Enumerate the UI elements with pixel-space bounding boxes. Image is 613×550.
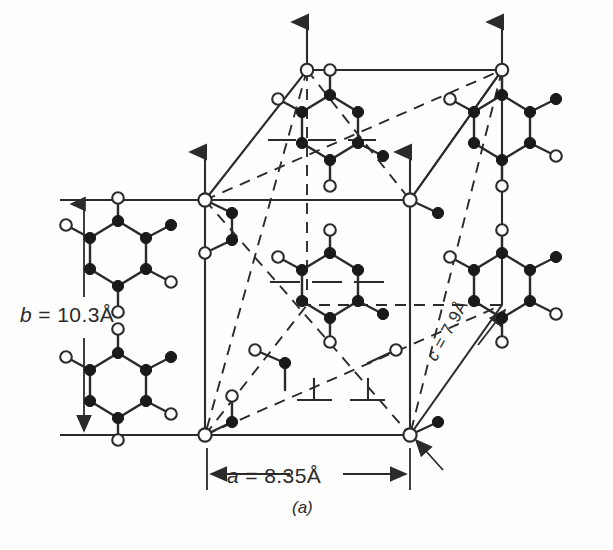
symmetry-marker-T-right [350, 378, 385, 400]
hidden-diagonal-top [205, 70, 502, 200]
unit-cell-hidden-edges [205, 70, 502, 435]
label-b-symbol: b [20, 303, 32, 326]
aromatic-ring-cell-front-lower [278, 230, 383, 342]
label-a-unit: Å [307, 464, 321, 487]
label-b-axis: b = 10.3Å [20, 303, 114, 327]
label-a-equals: = [239, 464, 264, 487]
molecular-structure-group [66, 70, 556, 440]
hidden-body-diagonal-a [410, 70, 502, 435]
label-b-value: 10.3 [57, 303, 99, 326]
hidden-edge-bottom-left [205, 305, 307, 435]
crystal-structure-figure: b = 10.3Å a = 8.35Å c = 7.9Å (a) [0, 0, 613, 550]
hidden-body-diagonal-b [205, 70, 307, 435]
label-b-unit: Å [100, 303, 114, 326]
symmetry-marker-group [150, 140, 385, 400]
label-a-symbol: a [227, 464, 239, 487]
label-a-value: 8.35 [264, 464, 306, 487]
dimension-line-c [416, 310, 505, 470]
label-a-axis: a = 8.35Å [227, 464, 321, 488]
c-arrow-lower [416, 440, 443, 470]
label-b-equals: = [32, 303, 57, 326]
figure-caption: (a) [292, 498, 313, 518]
cell-right-face [410, 70, 502, 435]
unit-cell-edges [205, 70, 502, 435]
